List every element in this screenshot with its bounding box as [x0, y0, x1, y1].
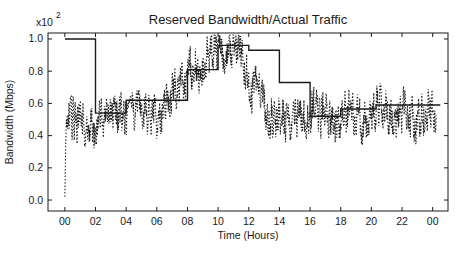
y-tick-label: 0.6 — [28, 97, 43, 109]
y-tick-label: 0.0 — [28, 194, 43, 206]
x-tick-label: 22 — [396, 215, 408, 227]
x-tick-label: 08 — [182, 215, 194, 227]
x-tick-label: 10 — [212, 215, 224, 227]
x-tick-label: 16 — [304, 215, 316, 227]
plot-area: 000204060810121416182022000.00.20.40.60.… — [28, 32, 448, 227]
x-tick-label: 06 — [151, 215, 163, 227]
x-tick-label: 00 — [59, 215, 71, 227]
x-tick-label: 02 — [90, 215, 102, 227]
y-tick-label: 0.4 — [28, 129, 43, 141]
x-axis-label: Time (Hours) — [218, 229, 279, 241]
actual-traffic-line — [65, 35, 436, 197]
y-scale-base-text: x10 — [36, 16, 53, 28]
y-scale-label: x10 2 — [36, 10, 61, 28]
chart-title: Reserved Bandwidth/Actual Traffic — [149, 12, 348, 27]
x-tick-label: 20 — [366, 215, 378, 227]
y-tick-label: 0.8 — [28, 65, 43, 77]
x-tick-label: 18 — [335, 215, 347, 227]
x-tick-label: 12 — [243, 215, 255, 227]
x-tick-label: 14 — [274, 215, 286, 227]
y-scale-exponent-text: 2 — [56, 10, 61, 20]
y-tick-label: 1.0 — [28, 32, 43, 44]
chart-figure: x10 2 Reserved Bandwidth/Actual Traffic … — [0, 0, 464, 258]
y-tick-label: 0.2 — [28, 161, 43, 173]
x-tick-label: 00 — [427, 215, 439, 227]
bandwidth-chart: x10 2 Reserved Bandwidth/Actual Traffic … — [0, 0, 464, 258]
y-axis-label: Bandwidth (Mbps) — [3, 80, 15, 165]
x-tick-label: 04 — [120, 215, 132, 227]
